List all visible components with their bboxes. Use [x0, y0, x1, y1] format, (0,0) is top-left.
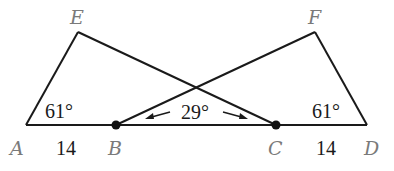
point-b-dot	[112, 121, 121, 130]
length-cd-label: 14	[316, 137, 336, 159]
arrow-right-icon	[223, 112, 248, 119]
point-c-dot	[272, 121, 281, 130]
angle-29-label: 29°	[181, 101, 209, 123]
segment-ec	[78, 32, 276, 125]
segment-bf	[116, 32, 315, 125]
label-d: D	[363, 137, 379, 159]
label-f: F	[307, 6, 322, 28]
length-ab-label: 14	[56, 137, 76, 159]
label-a: A	[8, 137, 24, 159]
angle-d-label: 61°	[312, 100, 340, 122]
angle-a-label: 61°	[45, 100, 73, 122]
label-c: C	[268, 137, 283, 159]
label-e: E	[69, 6, 84, 28]
geometry-diagram: E F A B C D 61° 29° 61° 14 14	[0, 0, 394, 171]
label-b: B	[107, 137, 122, 159]
arrow-left-icon	[145, 112, 170, 119]
